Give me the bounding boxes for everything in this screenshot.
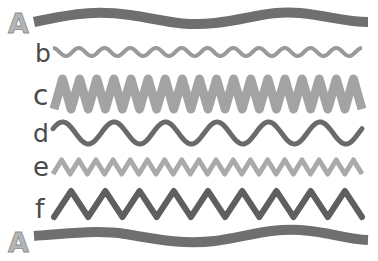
wave-e [53, 160, 362, 174]
wave-diagram: A b c d e f A [0, 0, 378, 261]
label-b: b [35, 39, 51, 68]
wave-A-bottom [34, 230, 368, 242]
row-e: e [33, 152, 362, 182]
label-A-bottom: A [8, 227, 29, 258]
row-f: f [35, 191, 362, 224]
label-e: e [33, 152, 49, 182]
label-A-top: A [8, 8, 29, 39]
wave-c [54, 79, 362, 109]
label-c: c [33, 79, 48, 112]
row-b: b [35, 39, 362, 68]
wave-b [53, 48, 362, 56]
wave-f [54, 191, 362, 217]
wave-d [53, 122, 362, 144]
row-d: d [33, 119, 362, 148]
wave-A-top [34, 12, 368, 24]
label-d: d [33, 119, 49, 148]
row-c: c [33, 79, 362, 112]
label-f: f [35, 193, 46, 224]
row-A-bottom: A [8, 227, 368, 258]
row-A-top: A [8, 8, 368, 39]
